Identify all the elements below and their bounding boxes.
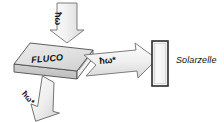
arrow-emitted-right: [84, 43, 157, 78]
solar-cell-rect: [152, 41, 168, 86]
diagram-canvas: ħω FLUCO ħω* ħω* Solarzelle: [0, 0, 224, 122]
solar-cell-label: Solarzelle: [176, 56, 217, 65]
emitted-photon-right-label: ħω*: [99, 56, 116, 66]
incident-photon-label: ħω: [53, 12, 62, 25]
